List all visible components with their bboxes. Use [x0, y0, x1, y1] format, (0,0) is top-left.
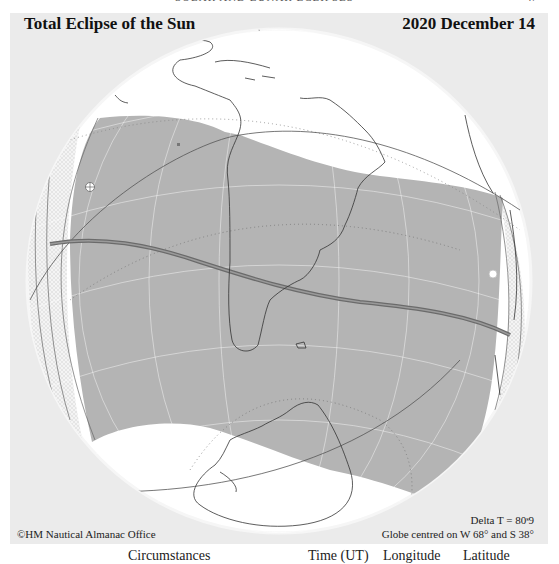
circumstances-table-header: Circumstances Time (UT) Longitude Latitu…: [0, 548, 559, 562]
column-header-latitude: Latitude: [463, 548, 510, 564]
column-header-time: Time (UT): [308, 548, 369, 564]
copyright-credit: ©HM Nautical Almanac Office: [17, 528, 156, 540]
figure-title: Total Eclipse of the Sun: [24, 14, 195, 34]
eclipse-date: 2020 December 14: [402, 14, 535, 34]
globe-centre-label: Globe centred on W 68° and S 38°: [382, 528, 534, 540]
delta-t-value: Delta T = 80ˢ9: [471, 514, 534, 526]
column-header-longitude: Longitude: [383, 548, 441, 564]
start-marker-icon: [86, 183, 95, 192]
column-header-circumstances: Circumstances: [128, 548, 210, 564]
end-marker-icon: [489, 270, 497, 278]
small-square-marker: [177, 143, 180, 146]
